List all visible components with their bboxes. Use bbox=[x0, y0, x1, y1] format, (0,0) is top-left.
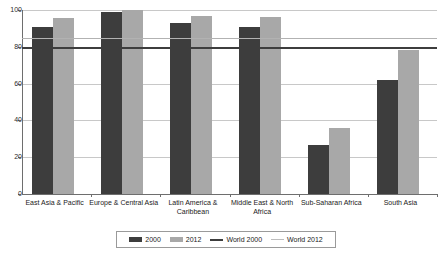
gridline bbox=[22, 157, 437, 158]
x-axis-category-label: South Asia bbox=[366, 199, 435, 208]
x-axis-tick-mark bbox=[230, 194, 231, 197]
bar bbox=[32, 27, 53, 194]
legend-label: 2000 bbox=[145, 236, 161, 243]
x-axis-category-label: Middle East & North Africa bbox=[228, 199, 297, 216]
bar bbox=[101, 12, 122, 194]
chart-legend: 20002012World 2000World 2012 bbox=[116, 231, 336, 248]
y-axis-tick-label: 100 bbox=[4, 6, 22, 13]
y-axis-tick: 80 bbox=[0, 47, 22, 48]
legend-swatch-icon bbox=[210, 239, 223, 241]
gridline bbox=[22, 10, 437, 11]
legend-label: World 2000 bbox=[226, 236, 262, 243]
x-axis-category-label: East Asia & Pacific bbox=[20, 199, 89, 208]
reference-line-world-2000 bbox=[22, 47, 437, 49]
x-axis-category-label: Latin America & Caribbean bbox=[158, 199, 227, 216]
reference-line-world-2012 bbox=[22, 38, 437, 39]
bar bbox=[308, 145, 329, 194]
x-axis-tick-mark bbox=[437, 194, 438, 197]
legend-swatch-icon bbox=[170, 237, 183, 242]
legend-item[interactable]: World 2000 bbox=[210, 236, 262, 243]
legend-item[interactable]: 2000 bbox=[129, 236, 161, 243]
legend-item[interactable]: 2012 bbox=[170, 236, 202, 243]
bar bbox=[53, 18, 74, 194]
y-axis-tick: 60 bbox=[0, 84, 22, 85]
legend-item[interactable]: World 2012 bbox=[271, 236, 323, 243]
x-axis-tick-mark bbox=[160, 194, 161, 197]
y-axis-tick-label: 0 bbox=[4, 190, 22, 197]
legend-swatch-icon bbox=[271, 239, 284, 240]
bar-chart: 020406080100 East Asia & PacificEurope &… bbox=[0, 0, 445, 254]
gridline bbox=[22, 120, 437, 121]
bar bbox=[398, 50, 419, 194]
x-axis-tick-mark bbox=[368, 194, 369, 197]
y-axis-tick-label: 60 bbox=[4, 80, 22, 87]
x-axis-tick-mark bbox=[91, 194, 92, 197]
y-axis-tick: 100 bbox=[0, 10, 22, 11]
x-axis-tick-mark bbox=[299, 194, 300, 197]
y-axis-tick-label: 80 bbox=[4, 43, 22, 50]
bar bbox=[329, 128, 350, 194]
legend-swatch-icon bbox=[129, 237, 142, 242]
bar bbox=[260, 17, 281, 194]
bar bbox=[377, 80, 398, 194]
bar bbox=[239, 27, 260, 194]
bar bbox=[191, 16, 212, 194]
x-axis-category-label: Europe & Central Asia bbox=[89, 199, 158, 208]
x-axis-category-label: Sub-Saharan Africa bbox=[297, 199, 366, 208]
y-axis-tick: 0 bbox=[0, 194, 22, 195]
y-axis-tick-label: 20 bbox=[4, 153, 22, 160]
legend-label: World 2012 bbox=[287, 236, 323, 243]
y-axis-tick: 40 bbox=[0, 120, 22, 121]
gridline bbox=[22, 84, 437, 85]
y-axis-tick: 20 bbox=[0, 157, 22, 158]
y-axis-tick-label: 40 bbox=[4, 116, 22, 123]
legend-label: 2012 bbox=[186, 236, 202, 243]
